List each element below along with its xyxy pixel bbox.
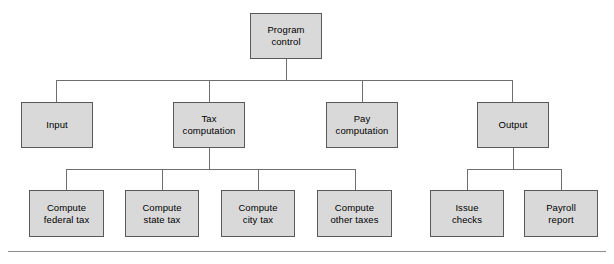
connector-drop-federal	[66, 169, 67, 190]
connector-root-stem	[286, 59, 287, 81]
node-program-control[interactable]: Program control	[250, 13, 322, 59]
node-label-tax-computation: Tax computation	[181, 113, 238, 137]
node-input[interactable]: Input	[21, 102, 93, 148]
node-label-program-control: Program control	[265, 24, 306, 48]
node-label-compute-state-tax: Compute state tax	[140, 202, 183, 226]
connector-drop-tax	[209, 80, 210, 102]
node-output[interactable]: Output	[477, 102, 549, 148]
node-compute-city-tax[interactable]: Compute city tax	[221, 190, 295, 237]
connector-drop-other	[355, 169, 356, 190]
structure-chart-canvas: Program controlInputTax computationPay c…	[0, 0, 614, 264]
node-compute-other-taxes[interactable]: Compute other taxes	[317, 190, 392, 237]
node-compute-federal-tax[interactable]: Compute federal tax	[29, 190, 104, 237]
connector-output-bus	[467, 169, 561, 170]
horizontal-rule	[8, 251, 606, 252]
node-label-payroll-report: Payroll report	[544, 202, 578, 226]
node-label-compute-other-taxes: Compute other taxes	[328, 202, 380, 226]
connector-tax-bus	[66, 169, 355, 170]
connector-level1-bus	[56, 80, 513, 81]
node-label-output: Output	[496, 119, 529, 131]
node-label-issue-checks: Issue checks	[450, 202, 484, 226]
connector-drop-issue	[467, 169, 468, 190]
connector-drop-city	[258, 169, 259, 190]
connector-drop-payroll	[561, 169, 562, 190]
connector-drop-pay	[362, 80, 363, 102]
node-payroll-report[interactable]: Payroll report	[524, 190, 598, 237]
node-label-pay-computation: Pay computation	[334, 113, 391, 137]
node-label-compute-city-tax: Compute city tax	[236, 202, 279, 226]
connector-output-stem	[513, 148, 514, 169]
node-label-input: Input	[44, 119, 70, 131]
node-tax-computation[interactable]: Tax computation	[173, 102, 245, 148]
connector-tax-stem	[209, 148, 210, 169]
connector-drop-state	[162, 169, 163, 190]
node-label-compute-federal-tax: Compute federal tax	[42, 202, 91, 226]
node-issue-checks[interactable]: Issue checks	[430, 190, 504, 237]
node-pay-computation[interactable]: Pay computation	[326, 102, 398, 148]
node-compute-state-tax[interactable]: Compute state tax	[125, 190, 199, 237]
connector-drop-output	[512, 80, 513, 102]
connector-drop-input	[56, 80, 57, 102]
